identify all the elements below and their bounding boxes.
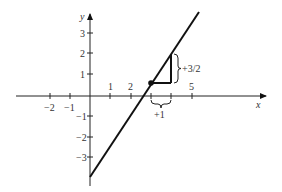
x-tick-label-1: 1 bbox=[108, 81, 113, 92]
x-tick-label-2: 2 bbox=[128, 81, 133, 92]
y-axis-label: y bbox=[79, 11, 85, 22]
rise-brace-icon bbox=[174, 54, 181, 83]
point-marker bbox=[148, 80, 154, 86]
y-tick-label-1: 1 bbox=[80, 69, 85, 80]
graph-line bbox=[90, 12, 199, 177]
y-tick-label-2: 2 bbox=[80, 48, 85, 59]
run-brace-icon bbox=[151, 100, 171, 108]
run-label: +1 bbox=[154, 109, 165, 120]
x-tick-label-neg1: −1 bbox=[64, 102, 75, 113]
rise-label: +3/2 bbox=[182, 63, 200, 74]
x-axis-label: x bbox=[255, 99, 261, 110]
x-axis: −2 −1 1 2 5 x bbox=[16, 81, 266, 113]
coordinate-graph: −2 −1 1 2 5 x 3 2 1 −1 −2 −3 y +3/2 bbox=[0, 0, 282, 192]
y-tick-label-neg3: −3 bbox=[76, 152, 87, 163]
y-tick-label-neg2: −2 bbox=[76, 132, 87, 143]
x-tick-label-neg2: −2 bbox=[44, 102, 55, 113]
y-tick-label-3: 3 bbox=[80, 28, 85, 39]
y-tick-label-neg1: −1 bbox=[76, 111, 87, 122]
x-tick-label-5: 5 bbox=[189, 81, 194, 92]
y-axis: 3 2 1 −1 −2 −3 y bbox=[76, 11, 93, 186]
